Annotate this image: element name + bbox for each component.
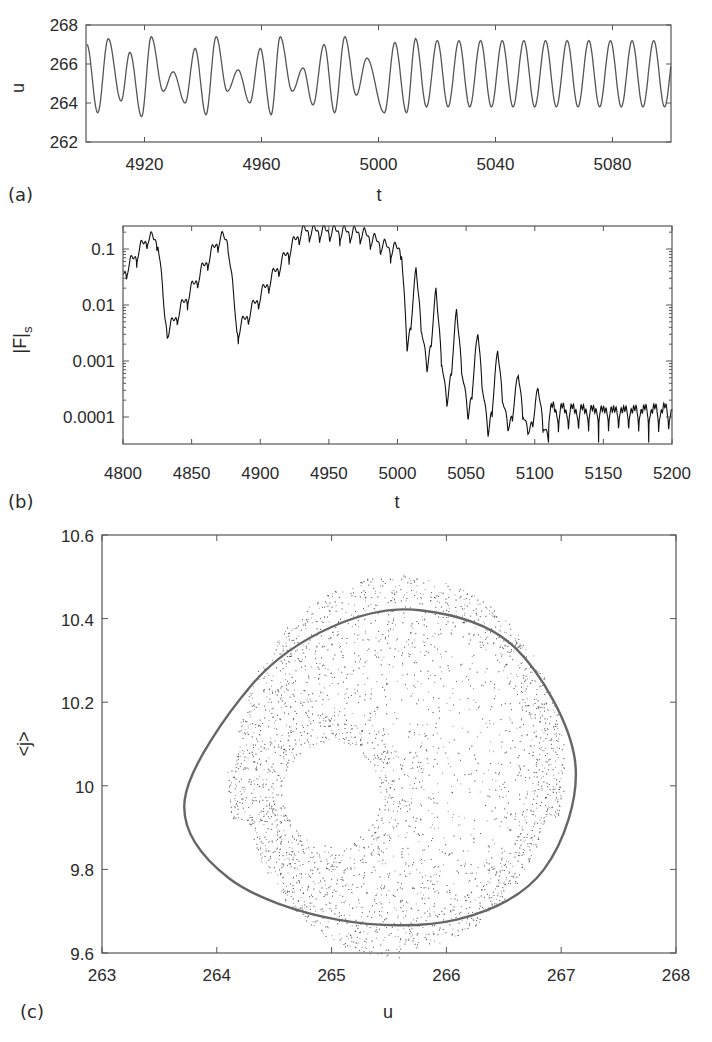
x-tick-label: 265	[317, 966, 345, 985]
panel-a-xlabel: t	[376, 185, 381, 205]
y-tick-label: 10.2	[61, 694, 94, 713]
y-tick-label: 264	[50, 94, 78, 113]
panel-a-ylabel: u	[8, 83, 28, 93]
panel-c-label: (c)	[20, 1001, 44, 1022]
u-time-series-line	[87, 37, 671, 117]
y-tick-label: 0.001	[72, 352, 115, 371]
y-tick-label: 262	[50, 133, 78, 152]
x-tick-label: 5100	[516, 464, 554, 483]
panel-a: 49204960500050405080262264266268 u t (a)	[8, 16, 671, 205]
x-tick-label: 264	[203, 966, 231, 985]
y-tick-label: 268	[50, 16, 78, 35]
x-tick-label: 4920	[126, 155, 164, 174]
x-tick-label: 5050	[447, 464, 485, 483]
y-tick-label: 10.6	[61, 527, 94, 546]
x-tick-label: 4850	[173, 464, 211, 483]
panel-b-ylabel: |F|s	[10, 326, 35, 353]
x-tick-label: 4800	[104, 464, 142, 483]
x-tick-label: 267	[547, 966, 575, 985]
x-tick-label: 5200	[653, 464, 691, 483]
y-tick-label: 0.1	[91, 240, 115, 259]
x-tick-label: 4950	[310, 464, 348, 483]
panel-b-xlabel: t	[394, 492, 399, 512]
panel-c-xlabel: u	[383, 1002, 393, 1022]
x-tick-label: 5040	[477, 155, 515, 174]
limit-cycle-line	[184, 609, 576, 925]
figure-canvas: 49204960500050405080262264266268 u t (a)…	[0, 0, 712, 1042]
panel-c-ticks: 2632642652662672689.69.81010.210.410.6	[61, 527, 690, 985]
y-tick-label: 10	[75, 778, 94, 797]
panel-c-ylabel: <j>	[14, 731, 34, 756]
x-tick-label: 5080	[594, 155, 632, 174]
panel-b-ylabel-text: |F|s	[10, 326, 35, 353]
y-tick-label: 0.01	[82, 296, 115, 315]
flux-log-line	[123, 226, 672, 443]
x-tick-label: 268	[662, 966, 690, 985]
panel-b-label: (b)	[8, 491, 33, 512]
attractor-scatter-dots	[228, 576, 565, 958]
panel-a-ticks: 49204960500050405080262264266268	[50, 16, 671, 174]
y-tick-label: 0.0001	[63, 408, 115, 427]
x-tick-label: 5000	[360, 155, 398, 174]
y-tick-label: 10.4	[61, 611, 94, 630]
x-tick-label: 5000	[379, 464, 417, 483]
x-tick-label: 4960	[243, 155, 281, 174]
panel-a-label: (a)	[8, 184, 33, 205]
panel-a-frame	[86, 25, 671, 142]
y-tick-label: 9.6	[70, 945, 94, 964]
x-tick-label: 5150	[584, 464, 622, 483]
x-tick-label: 266	[432, 966, 460, 985]
x-tick-label: 263	[88, 966, 116, 985]
y-tick-label: 9.8	[70, 861, 94, 880]
panel-c: 2632642652662672689.69.81010.210.410.6 <…	[14, 527, 690, 1022]
y-tick-label: 266	[50, 55, 78, 74]
panel-b: 4800485049004950500050505100515052000.10…	[8, 226, 691, 512]
x-tick-label: 4900	[241, 464, 279, 483]
